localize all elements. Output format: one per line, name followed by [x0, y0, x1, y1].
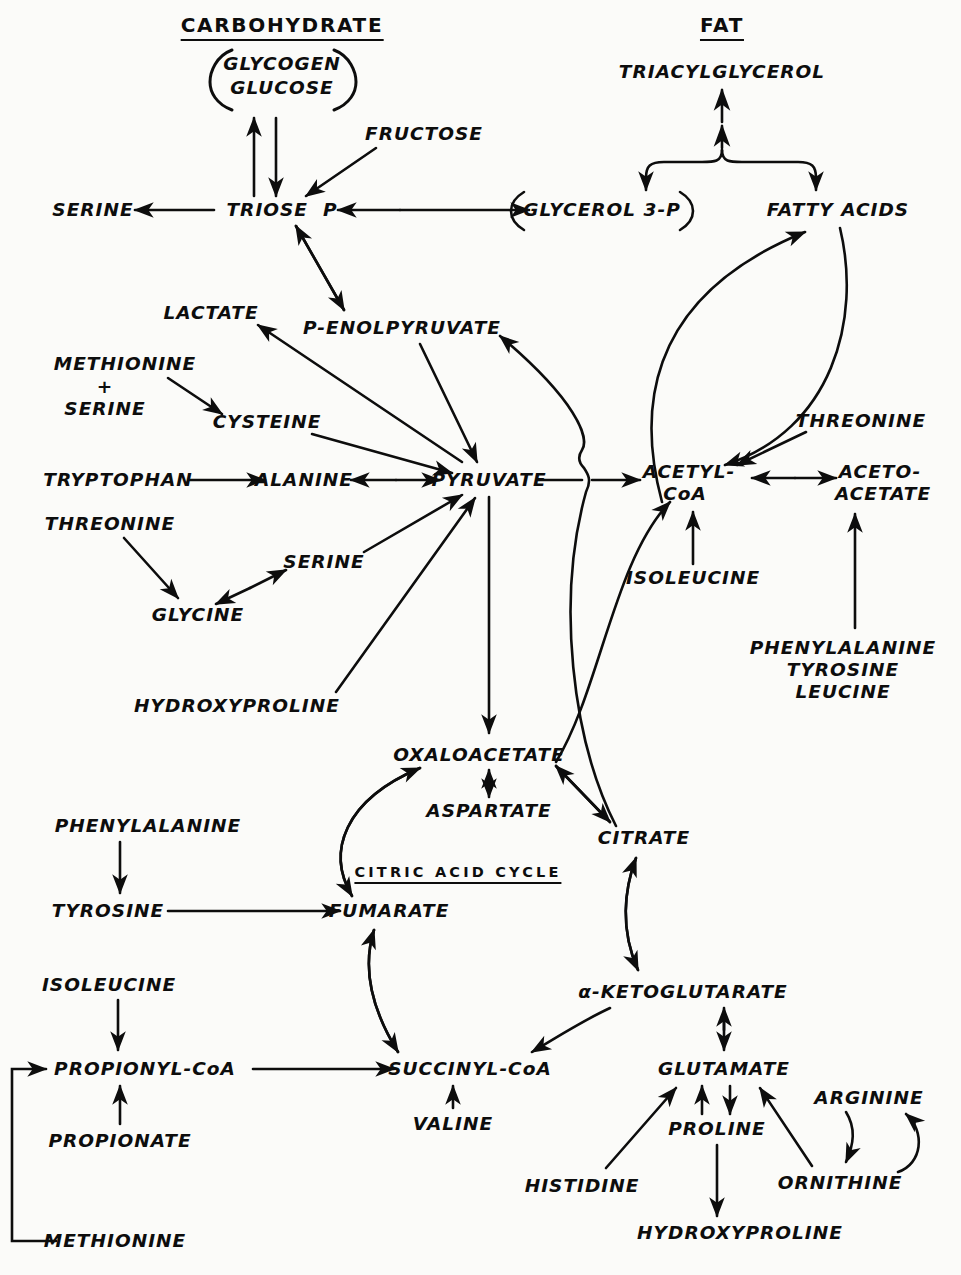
node-acetoacetate-line1: ACETO- — [839, 463, 921, 482]
node-hydroxyproline-top: HYDROXYPROLINE — [134, 697, 340, 716]
node-tyrosine-right: TYROSINE — [787, 661, 899, 680]
node-ornithine: ORNITHINE — [778, 1174, 903, 1193]
node-serine-top: SERINE — [52, 201, 133, 220]
node-threonine-right: THREONINE — [796, 412, 926, 431]
node-fumarate: FUMARATE — [329, 902, 450, 921]
node-triose-p: TRIOSE P — [226, 201, 337, 220]
node-arginine: ARGININE — [814, 1089, 923, 1108]
node-isoleucine-left: ISOLEUCINE — [42, 976, 176, 995]
node-succinyl-coa: SUCCINYL-CoA — [388, 1060, 552, 1079]
node-glycogen: GLYCOGEN — [223, 55, 341, 74]
node-glucose: GLUCOSE — [230, 79, 333, 98]
node-glycerol-3-p: GLYCEROL 3-P — [523, 201, 681, 220]
metabolic-pathway-diagram: CARBOHYDRATE FAT CITRIC ACID CYCLE GLYCO… — [0, 0, 961, 1275]
node-isoleucine-acetyl: ISOLEUCINE — [626, 569, 760, 588]
node-lactate: LACTATE — [163, 304, 258, 323]
node-histidine: HISTIDINE — [525, 1177, 640, 1196]
node-p-enolpyruvate: P-ENOLPYRUVATE — [303, 319, 501, 338]
node-acetoacetate-line2: ACETATE — [835, 485, 931, 504]
node-triacylglycerol: TRIACYLGLYCEROL — [619, 63, 825, 82]
node-phenylalanine-left: PHENYLALANINE — [55, 817, 241, 836]
node-methionine-top: METHIONINE — [54, 355, 196, 374]
node-acetyl-coa-line1: ACETYL- — [643, 463, 736, 482]
node-propionate: PROPIONATE — [48, 1132, 191, 1151]
node-valine: VALINE — [413, 1115, 493, 1134]
node-alanine: ALANINE — [255, 471, 353, 490]
node-leucine-right: LEUCINE — [795, 683, 890, 702]
node-glycine: GLYCINE — [152, 606, 245, 625]
node-tryptophan: TRYPTOPHAN — [43, 471, 193, 490]
node-threonine-left: THREONINE — [45, 515, 175, 534]
node-phenylalanine-right: PHENYLALANINE — [750, 639, 936, 658]
node-serine-low: SERINE — [283, 553, 364, 572]
node-acetyl-coa-line2: CoA — [663, 485, 707, 504]
node-propionyl-coa: PROPIONYL-CoA — [54, 1060, 236, 1079]
node-plus-sign: + — [97, 378, 114, 397]
node-fructose: FRUCTOSE — [365, 125, 483, 144]
heading-fat: FAT — [700, 13, 744, 41]
node-serine-mid: SERINE — [64, 400, 145, 419]
heading-carbohydrate: CARBOHYDRATE — [181, 13, 384, 41]
node-hydroxyproline-bottom: HYDROXYPROLINE — [637, 1224, 843, 1243]
node-cysteine: CYSTEINE — [213, 413, 322, 432]
node-oxaloacetate: OXALOACETATE — [393, 746, 565, 765]
node-citrate: CITRATE — [598, 829, 690, 848]
heading-citric-acid-cycle: CITRIC ACID CYCLE — [354, 864, 561, 884]
node-glutamate: GLUTAMATE — [658, 1060, 790, 1079]
node-fatty-acids: FATTY ACIDS — [767, 201, 909, 220]
node-methionine-bottom: METHIONINE — [44, 1232, 186, 1251]
node-alpha-ketoglutarate: α-KETOGLUTARATE — [578, 983, 788, 1002]
node-tyrosine-left: TYROSINE — [52, 902, 164, 921]
node-aspartate: ASPARTATE — [426, 802, 551, 821]
node-pyruvate: PYRUVATE — [431, 471, 546, 490]
node-proline: PROLINE — [668, 1120, 765, 1139]
